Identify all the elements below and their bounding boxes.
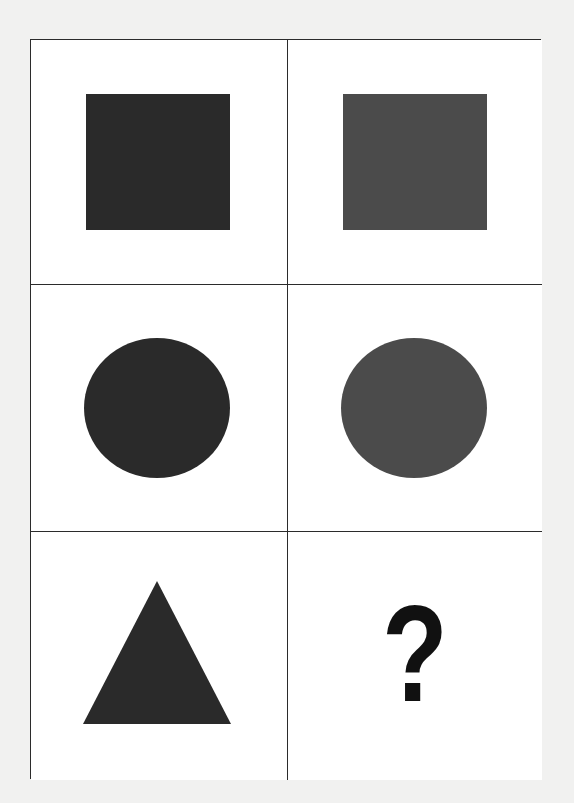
dark-square-shape [86,94,230,230]
dark-triangle-shape [83,581,231,724]
gray-square-shape [343,94,487,230]
cell-r1-c2 [288,40,542,285]
cell-r3-c2-answer[interactable]: ? [288,532,542,780]
dark-circle-shape [84,338,230,478]
cell-r3-c1 [31,532,288,780]
question-mark-icon: ? [316,584,514,722]
cell-r2-c1 [31,285,288,532]
gray-circle-shape [341,338,487,478]
cell-r2-c2 [288,285,542,532]
puzzle-grid: ? [30,39,541,779]
cell-r1-c1 [31,40,288,285]
